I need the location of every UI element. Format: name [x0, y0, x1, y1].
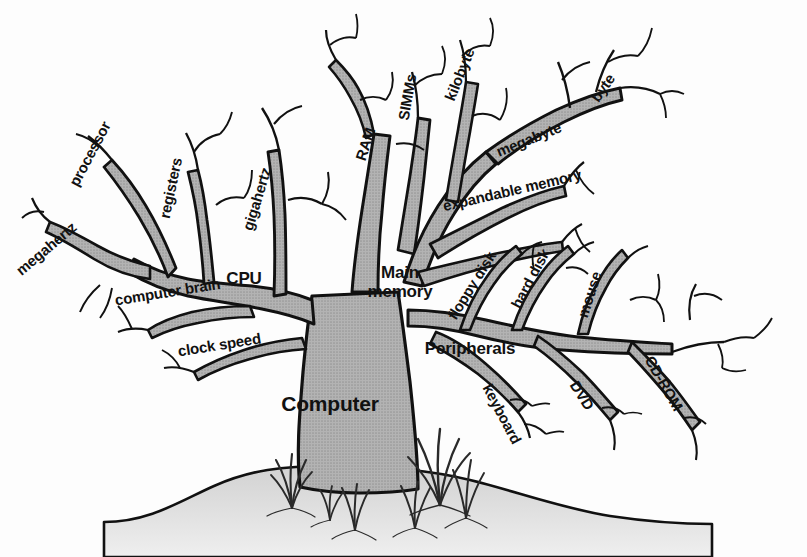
tree-label-main-memory: Main memory — [368, 263, 433, 301]
tree-label-cpu: CPU — [226, 269, 261, 289]
concept-tree-diagram: ComputerCPUMain memoryPeripheralsmegaher… — [0, 0, 807, 557]
tree-label-trunk: Computer — [281, 392, 379, 416]
branch-cpu — [22, 106, 346, 380]
tree-label-peripherals: Peripherals — [425, 339, 515, 359]
